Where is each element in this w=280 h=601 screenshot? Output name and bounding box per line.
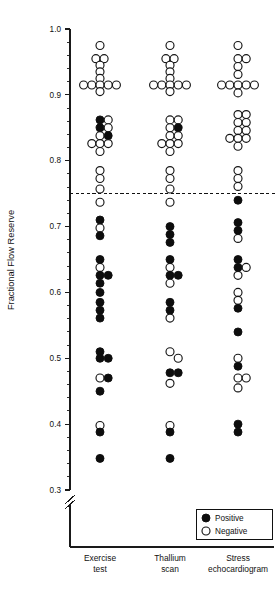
data-point-positive <box>166 298 174 306</box>
data-point-negative <box>96 185 104 193</box>
data-point-positive <box>166 369 174 377</box>
data-point-negative <box>104 140 112 148</box>
data-point-positive <box>96 428 104 436</box>
data-point-positive <box>96 216 104 224</box>
data-point-negative <box>242 55 250 63</box>
data-point-negative <box>150 81 158 89</box>
data-point-negative <box>166 41 174 49</box>
data-point-negative <box>174 132 182 140</box>
data-point-positive <box>96 387 104 395</box>
y-tick-label: 1.0 <box>50 25 62 34</box>
data-point-positive <box>96 306 104 314</box>
data-point-negative <box>174 140 182 148</box>
data-point-positive <box>166 230 174 238</box>
data-point-positive <box>234 263 242 271</box>
data-point-negative <box>234 354 242 362</box>
data-point-positive <box>234 227 242 235</box>
data-point-positive <box>96 271 104 279</box>
x-category-label: Stress <box>226 553 250 563</box>
data-point-negative <box>234 296 242 304</box>
data-point-negative <box>234 55 242 63</box>
data-point-negative <box>166 198 174 206</box>
data-point-positive <box>166 271 174 279</box>
x-category-label: Thallium <box>154 553 186 563</box>
data-point-positive <box>234 428 242 436</box>
fractional-flow-reserve-dot-plot: 1.00.90.80.70.60.50.40.3 Fractional Flow… <box>0 0 280 601</box>
data-point-negative <box>242 263 250 271</box>
data-point-negative <box>80 81 88 89</box>
data-point-positive <box>166 238 174 246</box>
data-point-negative <box>234 70 242 78</box>
data-point-negative <box>234 126 242 134</box>
data-point-negative <box>234 134 242 142</box>
data-point-negative <box>242 374 250 382</box>
data-point-negative <box>166 185 174 193</box>
data-point-negative <box>174 81 182 89</box>
y-tick-label: 0.6 <box>50 288 62 297</box>
data-point-positive <box>234 304 242 312</box>
data-point-negative <box>158 140 166 148</box>
data-point-positive <box>166 306 174 314</box>
data-point-negative <box>96 167 104 175</box>
data-point-negative <box>104 81 112 89</box>
data-point-positive <box>104 132 112 140</box>
data-point-negative <box>234 374 242 382</box>
data-point-positive <box>166 454 174 462</box>
data-point-negative <box>234 234 242 242</box>
data-point-negative <box>174 354 182 362</box>
y-axis-title: Fractional Flow Reserve <box>6 210 16 310</box>
data-point-positive <box>234 420 242 428</box>
x-category-label: echocardiogram <box>208 564 268 574</box>
data-point-positive <box>96 298 104 306</box>
y-axis: 1.00.90.80.70.60.50.40.3 <box>50 25 75 547</box>
data-point-negative <box>242 81 250 89</box>
data-point-negative <box>166 140 174 148</box>
data-point-negative <box>234 167 242 175</box>
data-point-positive <box>166 223 174 231</box>
data-point-negative <box>96 198 104 206</box>
data-point-positive <box>96 232 104 240</box>
data-point-positive <box>104 374 112 382</box>
data-point-negative <box>166 132 174 140</box>
data-point-negative <box>96 263 104 271</box>
y-tick-label: 0.5 <box>50 354 62 363</box>
data-point-positive <box>234 219 242 227</box>
data-point-negative <box>242 126 250 134</box>
chart-legend: PositiveNegative <box>196 509 272 539</box>
data-point-positive <box>96 354 104 362</box>
y-tick-label: 0.8 <box>50 156 62 165</box>
data-point-negative <box>96 147 104 155</box>
data-point-positive <box>174 369 182 377</box>
legend-label: Positive <box>215 514 244 523</box>
data-point-negative <box>104 116 112 124</box>
data-point-positive <box>234 196 242 204</box>
data-point-negative <box>166 263 174 271</box>
data-point-positive <box>96 124 104 132</box>
data-point-positive <box>96 256 104 264</box>
data-point-negative <box>166 379 174 387</box>
data-points-layer <box>80 41 259 462</box>
data-point-negative <box>234 271 242 279</box>
data-point-negative <box>96 41 104 49</box>
data-point-positive <box>96 454 104 462</box>
data-point-positive <box>104 354 112 362</box>
y-tick-label: 0.9 <box>50 91 62 100</box>
legend-marker-positive <box>202 514 210 522</box>
data-point-negative <box>218 81 226 89</box>
data-point-negative <box>234 41 242 49</box>
data-point-negative <box>166 88 174 96</box>
data-point-negative <box>242 119 250 127</box>
data-point-negative <box>242 111 250 119</box>
data-point-positive <box>96 116 104 124</box>
data-point-negative <box>234 384 242 392</box>
data-point-negative <box>234 175 242 183</box>
data-point-negative <box>96 88 104 96</box>
data-point-positive <box>234 328 242 336</box>
data-point-negative <box>174 116 182 124</box>
data-point-positive <box>234 362 242 370</box>
y-tick-label: 0.3 <box>50 486 62 495</box>
data-point-positive <box>174 124 182 132</box>
data-point-negative <box>88 81 96 89</box>
y-tick-label: 0.4 <box>50 420 62 429</box>
data-point-positive <box>234 256 242 264</box>
